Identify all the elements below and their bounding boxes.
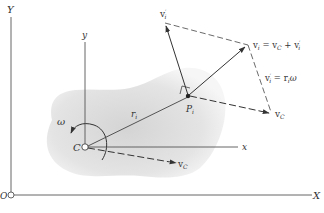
vi-prime-label: v′i xyxy=(159,8,167,20)
omega-label: ω xyxy=(57,116,65,127)
rigid-body-velocity-diagram: Y X O y x ω C ri vC Pi vC v′i vi = vC + … xyxy=(0,0,324,213)
center-point-c xyxy=(82,144,88,150)
fixed-y-label: Y xyxy=(7,4,15,15)
origin-label: O xyxy=(0,191,8,201)
vc-label-at-pi: vC xyxy=(274,109,285,120)
vi-equation-label: vi = vC + v′i xyxy=(252,39,301,51)
origin-point xyxy=(8,192,14,198)
parallelogram-top-edge xyxy=(165,23,248,45)
vi-prime-equation-label: v′i = riω xyxy=(264,72,297,84)
fixed-x-label: X xyxy=(312,190,321,201)
body-y-label: y xyxy=(81,30,88,40)
body-x-label: x xyxy=(242,142,247,152)
center-label: C xyxy=(73,142,81,153)
